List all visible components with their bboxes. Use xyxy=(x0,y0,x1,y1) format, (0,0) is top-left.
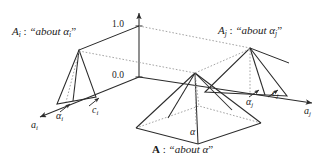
marker-alpha-j-sub: j xyxy=(251,101,253,108)
fuzzy-set-diagram: Ai : “about αi” Aj : “about αj” A : “abo… xyxy=(0,0,329,162)
marker-c-i-sub: i xyxy=(96,109,98,116)
marker-label-alpha-i: αi xyxy=(56,110,63,122)
axis-a-i xyxy=(40,77,139,117)
marker-alpha-i-sub: i xyxy=(61,115,63,122)
axis-label-a-j: aj xyxy=(304,105,311,117)
center-set-label: A : “about α” xyxy=(152,143,213,155)
center-set-quote-open: “about xyxy=(169,143,203,155)
left-set-quote-open: “about xyxy=(29,25,63,37)
center-set-quote-close: ” xyxy=(208,143,213,155)
pyramid-ridge-a xyxy=(195,73,232,110)
center-set-colon: : xyxy=(160,143,169,155)
left-set-label: Ai : “about αi” xyxy=(12,25,76,39)
tick-label-1-0: 1.0 xyxy=(112,19,124,29)
right-inner-edge xyxy=(250,48,265,95)
marker-alpha-base: α xyxy=(190,126,195,137)
center-pyramid-shape xyxy=(136,73,261,144)
left-set-quote-close: ” xyxy=(71,25,76,37)
marker-label-c-j: cj xyxy=(272,87,278,99)
axis-a-j xyxy=(139,77,312,103)
center-set-name: A xyxy=(152,143,160,155)
pyramid-ridge-b xyxy=(168,73,195,118)
marker-label-alpha: α xyxy=(190,126,195,137)
tick-label-0-0: 0.0 xyxy=(112,70,124,80)
marker-label-c-i: ci xyxy=(92,104,98,116)
level-line-to-left-apex xyxy=(79,26,139,50)
right-set-label: Aj : “about αj” xyxy=(218,24,282,38)
left-set-name: A xyxy=(12,25,19,37)
right-set-quote-close: ” xyxy=(277,24,282,36)
right-set-quote-open: “about xyxy=(235,24,269,36)
left-fuzzy-set-shape xyxy=(57,50,96,104)
left-triangle xyxy=(57,50,96,104)
pyramid-base-front xyxy=(136,123,261,144)
level-line-left-to-center xyxy=(79,51,195,73)
right-set-name: A xyxy=(218,24,225,36)
axis-label-a-j-sub: j xyxy=(309,110,311,117)
axis-label-a-i-sub: i xyxy=(36,124,38,131)
axis-label-a-i: ai xyxy=(31,119,38,131)
marker-c-j-sub: j xyxy=(276,92,278,99)
level-line-center-to-right xyxy=(195,49,250,73)
marker-label-alpha-j: αj xyxy=(246,96,253,108)
